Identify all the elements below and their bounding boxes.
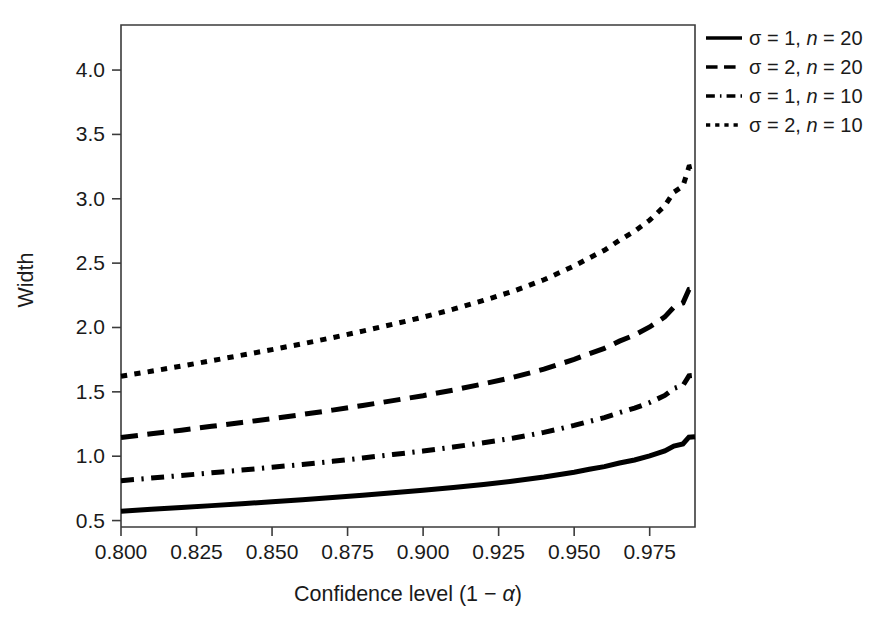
- y-axis-title: Width: [14, 253, 38, 308]
- x-tick-label: 0.875: [321, 540, 374, 563]
- legend-label-0: σ = 1, n = 20: [749, 27, 863, 49]
- legend-label-2: σ = 1, n = 10: [749, 85, 863, 107]
- x-tick-label: 0.975: [623, 540, 676, 563]
- x-tick-label: 0.825: [170, 540, 223, 563]
- y-tick-label: 1.0: [76, 444, 105, 467]
- legend-label-3: σ = 2, n = 10: [749, 114, 863, 136]
- chart-figure: 0.8000.8250.8500.8750.9000.9250.9500.975…: [0, 0, 877, 623]
- y-tick-label: 4.0: [76, 58, 105, 81]
- x-tick-label: 0.950: [548, 540, 601, 563]
- x-tick-label: 0.800: [95, 540, 148, 563]
- x-axis-title: Confidence level (1 − α): [294, 582, 522, 606]
- confidence-interval-width-chart: 0.8000.8250.8500.8750.9000.9250.9500.975…: [0, 0, 877, 623]
- y-tick-label: 3.5: [76, 122, 105, 145]
- y-tick-label: 2.0: [76, 315, 105, 338]
- y-tick-label: 1.5: [76, 380, 105, 403]
- x-tick-label: 0.925: [472, 540, 525, 563]
- y-tick-label: 2.5: [76, 251, 105, 274]
- legend-label-1: σ = 2, n = 20: [749, 56, 863, 78]
- y-tick-label: 0.5: [76, 509, 105, 532]
- y-tick-label: 3.0: [76, 187, 105, 210]
- x-tick-label: 0.850: [246, 540, 299, 563]
- x-tick-label: 0.900: [397, 540, 450, 563]
